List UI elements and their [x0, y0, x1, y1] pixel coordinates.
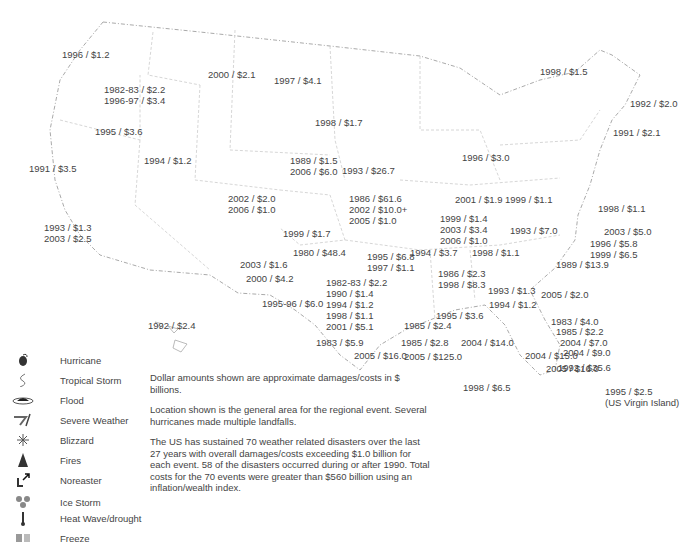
event-label-fire: 1991 / $3.5 [29, 163, 77, 174]
hurricane-icon [12, 352, 34, 368]
legend-item-freeze: Freeze [12, 530, 90, 546]
event-label-fire: 1994 / $1.2 [144, 155, 192, 166]
event-label-hurricane: 1998 / $1.1 [598, 203, 646, 214]
event-label-hurricane: 1996 / $5.8 1999 / $6.5 [590, 238, 638, 260]
event-label-ice: 1998 / $1.5 [540, 66, 588, 77]
event-label-severe: 2003 / $1.6 [240, 259, 288, 270]
event-label-flood: 1995 / $3.6 [95, 126, 143, 137]
event-label-hurricane: 2003 / $5.0 [604, 226, 652, 237]
event-label-hurricane: 1983 / $5.9 [316, 337, 364, 348]
event-label-heat: 2000 / $4.2 [246, 273, 294, 284]
noreaster-icon [12, 472, 34, 488]
event-label-hurricane: 1994 / $1.2 [489, 299, 537, 310]
blizzard-icon [12, 432, 34, 448]
fire-icon [12, 452, 34, 468]
legend-label: Blizzard [60, 435, 94, 446]
heat-wave-icon [12, 510, 34, 526]
event-label-severe: 1999 / $1.4 2003 / $3.4 2006 / $1.0 [440, 213, 488, 246]
legend-item-ice-storm: Ice Storm [12, 494, 101, 510]
event-label-severe: 2001 / $1.9 [455, 194, 503, 205]
event-label-hurricane: 1985 / $2.2 [556, 326, 604, 337]
event-label-hurricane: 1995 / $2.5 (US Virgin Island) [605, 386, 679, 408]
notes: Dollar amounts shown are approximate dam… [150, 372, 430, 503]
legend-item-hurricane: Hurricane [12, 352, 101, 368]
event-label-hurricane: 1985 / $2.8 [401, 337, 449, 348]
event-label-flood: 1996 / $1.2 [62, 49, 110, 60]
event-label-severe: 1998 / $1.1 [472, 247, 520, 258]
ice-storm-icon [12, 494, 34, 510]
event-label-hurricane: 2005 / $125.0 [404, 351, 462, 362]
flood-icon [12, 392, 34, 408]
event-label-fire: 2000 / $2.1 [208, 69, 256, 80]
event-label-hurricane: 1985 / $2.4 [404, 320, 452, 331]
event-label-severe: 1999 / $1.7 [283, 228, 331, 239]
legend-item-fires: Fires [12, 452, 81, 468]
freeze-icon [12, 530, 34, 546]
event-label-hurricane: 2005 / $2.0 [541, 289, 589, 300]
legend-item-severe-weather: Severe Weather [12, 412, 128, 428]
event-label-flood: 1982-83 / $2.2 1996-97 / $3.4 [104, 84, 165, 106]
event-label-heat: 1989 / $1.5 2006 / $6.0 [290, 155, 338, 177]
legend-label: Hurricane [60, 355, 101, 366]
event-label-blizzard: 1993 / $7.0 [510, 225, 558, 236]
event-label-flood: 1995 / $6.8 1997 / $1.1 [367, 251, 415, 273]
event-label-hurricane: 1992 / $2.4 [148, 320, 196, 331]
event-label-freeze: 1993 / $1.3 [488, 285, 536, 296]
event-label-flood: 1982-83 / $2.2 1990 / $1.4 1994 / $1.2 1… [326, 277, 387, 332]
legend-item-flood: Flood [12, 392, 84, 408]
severe-weather-icon [12, 412, 34, 428]
event-label-heat: 1986 / $2.3 1998 / $8.3 [438, 268, 486, 290]
event-label-ice: 1994 / $3.7 [410, 247, 458, 258]
event-label-fire: 2002 / $2.0 2006 / $1.0 [228, 193, 276, 215]
event-label-hurricane: 2005 / $16.0 [354, 350, 407, 361]
event-label-hurricane: 1991 / $2.1 [613, 127, 661, 138]
event-label-heat: 1995-96 / $6.0 [262, 298, 323, 309]
event-label-severe: 1998 / $1.7 [315, 117, 363, 128]
legend-label: Fires [60, 455, 81, 466]
legend-label: Tropical Storm [60, 375, 121, 386]
event-label-hurricane: 2004 / $14.0 [461, 337, 514, 348]
legend-label: Ice Storm [60, 497, 101, 508]
event-label-fire: 1993 / $1.3 2003 / $2.5 [44, 222, 92, 244]
event-label-hurricane: 1992 / $35.6 [558, 362, 611, 373]
event-label-blizzard: 1996 / $3.0 [462, 152, 510, 163]
event-label-hurricane: 1989 / $13.9 [556, 259, 609, 270]
legend-label: Heat Wave/drought [60, 513, 142, 524]
note-summary: The US has sustained 70 weather related … [150, 436, 430, 494]
tropical-storm-icon [12, 372, 34, 388]
event-label-heat: 1999 / $1.1 [505, 194, 553, 205]
legend-item-tropical-storm: Tropical Storm [12, 372, 121, 388]
note-location: Location shown is the general area for t… [150, 404, 430, 427]
legend-label: Severe Weather [60, 415, 128, 426]
legend-item-noreaster: Noreaster [12, 472, 102, 488]
event-label-hurricane: 2004 / $9.0 [563, 347, 611, 358]
legend-label: Flood [60, 395, 84, 406]
legend-label: Noreaster [60, 475, 102, 486]
event-label-hurricane: 1998 / $6.5 [463, 382, 511, 393]
event-label-flood: 1993 / $26.7 [342, 165, 395, 176]
event-label-noreaster: 1992 / $2.0 [630, 98, 678, 109]
event-label-heat: 1980 / $48.4 [293, 247, 346, 258]
legend-item-blizzard: Blizzard [12, 432, 94, 448]
note-dollar-amounts: Dollar amounts shown are approximate dam… [150, 372, 430, 395]
event-label-heat: 1986 / $61.6 2002 / $10.0+ 2005 / $1.0 [349, 193, 407, 226]
legend-label: Freeze [60, 533, 90, 544]
event-label-flood: 1997 / $4.1 [274, 75, 322, 86]
legend-item-heat-wave: Heat Wave/drought [12, 510, 142, 526]
